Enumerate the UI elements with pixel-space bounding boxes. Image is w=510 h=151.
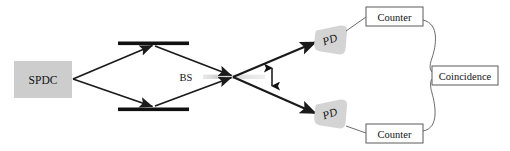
counter-bottom-label: Counter xyxy=(378,129,412,140)
figure-canvas: SPDC BS xyxy=(0,0,510,151)
spdc-source-label: SPDC xyxy=(29,74,58,86)
beam-bottom-mirror-to-beamsplitter xyxy=(155,78,232,107)
mirror-bottom-bar xyxy=(118,108,189,112)
beam-beamsplitter-to-bottom-detector xyxy=(233,77,316,114)
wire-top-counter-to-coincidence xyxy=(423,20,435,72)
coincidence-label: Coincidence xyxy=(439,71,492,82)
wire-bottom-counter-to-coincidence xyxy=(423,79,435,131)
beam-splitter-label: BS xyxy=(180,72,193,83)
mirror-top-bar xyxy=(118,42,189,46)
spdc-interferometer-svg: SPDC BS xyxy=(0,0,510,151)
mirror-bottom[interactable] xyxy=(118,108,189,112)
spdc-source[interactable]: SPDC xyxy=(14,61,72,98)
photodetector-top[interactable]: PD xyxy=(314,25,347,54)
coincidence-unit[interactable]: Coincidence xyxy=(432,66,498,85)
mirror-top[interactable] xyxy=(118,42,189,46)
counter-bottom[interactable]: Counter xyxy=(366,124,423,143)
counter-top-label: Counter xyxy=(378,12,412,23)
beam-source-to-top-mirror xyxy=(73,46,153,80)
wire-bottom-detector-to-bottom-counter xyxy=(346,126,366,133)
beam-source-to-bottom-mirror xyxy=(73,79,153,107)
beam-paths xyxy=(73,42,316,114)
wire-top-detector-to-top-counter xyxy=(346,17,366,31)
beam-beamsplitter-to-top-detector xyxy=(233,42,316,77)
beam-top-mirror-to-beamsplitter xyxy=(155,46,232,76)
photodetector-bottom[interactable]: PD xyxy=(314,99,347,128)
counter-top[interactable]: Counter xyxy=(366,7,423,26)
wires xyxy=(346,17,435,133)
